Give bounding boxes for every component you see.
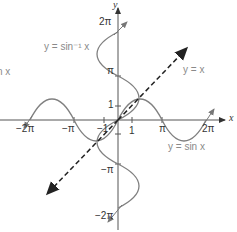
label-identity: y = x [183, 64, 204, 75]
y-tick-2pi: 2π [99, 16, 112, 27]
x-tick-negpi: −π [62, 123, 75, 134]
x-tick-neg2pi: −2π [16, 123, 34, 134]
x-tick-pi: π [159, 123, 166, 134]
y-tick-pi: π [107, 65, 114, 76]
y-tick-negpi: −π [101, 164, 114, 175]
partial-text-left: n x [0, 66, 10, 77]
sine-curve-arrow-right [204, 109, 214, 124]
x-axis-label: x [228, 112, 234, 123]
y-tick-1: 1 [108, 99, 114, 110]
x-tick-neg1: −1 [97, 123, 109, 134]
graph-sin-and-arcsin: y x −2π −π −1 1 π 2π 2π π 1 −π −2π y = s… [0, 0, 237, 232]
label-inverse-sine: y = sin⁻¹ x [44, 41, 89, 52]
y-axis-label: y [112, 0, 118, 10]
label-sine: y = sin x [168, 141, 205, 152]
y-tick-neg2pi: −2π [95, 210, 113, 221]
x-tick-1: 1 [129, 125, 135, 136]
inverse-sine-arrow-top [114, 22, 127, 35]
x-tick-2pi: 2π [202, 123, 215, 134]
identity-line [118, 49, 186, 120]
